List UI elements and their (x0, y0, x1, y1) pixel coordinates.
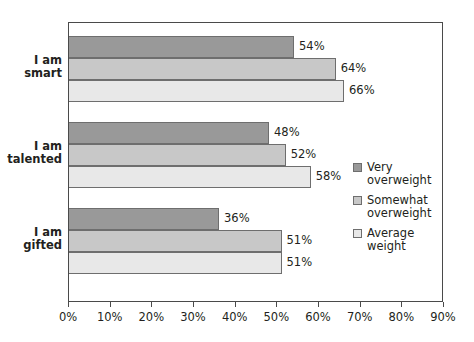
legend-swatch-icon (353, 229, 362, 238)
x-tick-mark (68, 302, 69, 307)
chart-legend: Very overweightSomewhat overweightAverag… (353, 161, 431, 260)
legend-label: Average weight (367, 227, 414, 253)
x-tick-label: 0% (59, 310, 77, 324)
bar[interactable] (68, 252, 282, 274)
bar-group: 54%64%66% (69, 36, 442, 102)
bar[interactable] (68, 80, 344, 102)
legend-item[interactable]: Very overweight (353, 161, 431, 187)
category-label-line: gifted (0, 239, 62, 252)
bar-value-label: 54% (299, 39, 325, 53)
x-tick-label: 10% (97, 310, 123, 324)
x-tick-label: 20% (139, 310, 165, 324)
bar-value-label: 64% (341, 61, 367, 75)
category-label: I amtalented (0, 140, 62, 166)
bar-row: 66% (69, 80, 442, 102)
x-tick-label: 70% (347, 310, 373, 324)
x-tick-mark (193, 302, 194, 307)
bar[interactable] (68, 208, 219, 230)
legend-item[interactable]: Average weight (353, 227, 431, 253)
bar-value-label: 51% (287, 255, 313, 269)
category-label: I amgifted (0, 226, 62, 252)
legend-swatch-icon (353, 163, 362, 172)
bar[interactable] (68, 144, 286, 166)
x-tick-label: 80% (389, 310, 415, 324)
bar[interactable] (68, 58, 336, 80)
bar[interactable] (68, 36, 294, 58)
x-tick-label: 60% (305, 310, 331, 324)
legend-item[interactable]: Somewhat overweight (353, 194, 431, 220)
x-tick-mark (360, 302, 361, 307)
bar[interactable] (68, 230, 282, 252)
bar[interactable] (68, 166, 311, 188)
legend-label: Somewhat overweight (367, 194, 431, 220)
x-tick-label: 50% (264, 310, 290, 324)
bar-value-label: 51% (287, 233, 313, 247)
x-tick-mark (443, 302, 444, 307)
chart-title (0, 0, 474, 2)
x-tick-label: 90% (430, 310, 456, 324)
bar-value-label: 48% (274, 125, 300, 139)
legend-swatch-icon (353, 196, 362, 205)
x-tick-label: 30% (180, 310, 206, 324)
x-tick-mark (110, 302, 111, 307)
bar-value-label: 52% (291, 147, 317, 161)
bar-row: 48% (69, 122, 442, 144)
bar-value-label: 36% (224, 211, 250, 225)
category-label: I amsmart (0, 54, 62, 80)
x-tick-label: 40% (222, 310, 248, 324)
legend-label: Very overweight (367, 161, 431, 187)
bar-row: 64% (69, 58, 442, 80)
bar[interactable] (68, 122, 269, 144)
x-tick-mark (235, 302, 236, 307)
category-label-line: smart (0, 67, 62, 80)
x-tick-mark (401, 302, 402, 307)
x-axis: 0%10%20%30%40%50%60%70%80%90% (68, 302, 443, 308)
x-tick-mark (276, 302, 277, 307)
x-tick-mark (151, 302, 152, 307)
category-label-line: talented (0, 153, 62, 166)
bar-value-label: 58% (316, 169, 342, 183)
x-tick-mark (318, 302, 319, 307)
bar-row: 54% (69, 36, 442, 58)
bar-value-label: 66% (349, 83, 375, 97)
